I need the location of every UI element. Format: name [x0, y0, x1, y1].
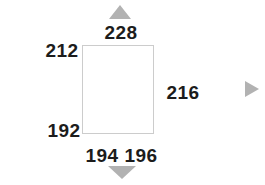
label-top-228: 228 [104, 23, 137, 42]
triangle-down-icon[interactable] [108, 166, 136, 179]
label-right-216: 216 [166, 83, 199, 102]
label-upper-left-212: 212 [45, 41, 78, 60]
label-lower-left-192: 192 [47, 121, 80, 140]
triangle-up-icon[interactable] [109, 5, 131, 19]
diagram-canvas: 228 212 216 192 194 196 [0, 0, 265, 185]
label-bottom-left-194: 194 [85, 146, 118, 165]
label-bottom-right-196: 196 [124, 146, 157, 165]
center-rectangle [82, 45, 154, 134]
triangle-right-icon[interactable] [245, 81, 259, 97]
